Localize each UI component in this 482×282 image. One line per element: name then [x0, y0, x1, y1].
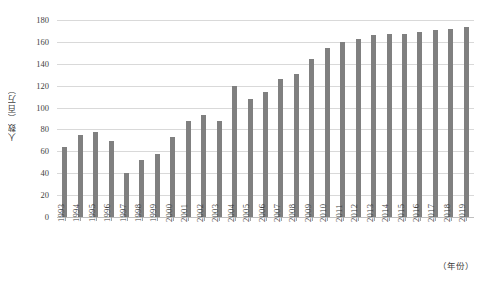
bar-2007[interactable]	[278, 79, 283, 217]
bar-chart: 人数（百万） 020406080100120140160180 19931994…	[0, 0, 482, 282]
bar-2002[interactable]	[201, 115, 206, 217]
x-tick-label-2007: 2007	[272, 204, 282, 222]
x-axis-title: （年份）	[438, 259, 474, 271]
plot-area	[57, 20, 474, 217]
y-axis-title-label: 人数（百万）	[7, 84, 19, 141]
x-tick-label-2012: 2012	[349, 204, 359, 222]
x-tick-label-2000: 2000	[164, 204, 174, 222]
x-tick-label-2014: 2014	[380, 204, 390, 222]
y-tick-label-60: 60	[41, 146, 50, 156]
y-tick-label-180: 180	[36, 15, 49, 25]
x-tick-label-2003: 2003	[210, 204, 220, 222]
bar-2004[interactable]	[232, 86, 237, 217]
y-axis-title: 人数（百万）	[2, 0, 24, 225]
y-tick-label-100: 100	[36, 103, 49, 113]
x-tick-label-2009: 2009	[303, 204, 313, 222]
x-tick-label-2005: 2005	[241, 204, 251, 222]
bar-2012[interactable]	[356, 39, 361, 217]
bar-2001[interactable]	[186, 121, 191, 217]
bar-2010[interactable]	[325, 48, 330, 217]
y-tick-label-0: 0	[45, 212, 49, 222]
y-tick-label-140: 140	[36, 59, 49, 69]
x-tick-label-1996: 1996	[102, 204, 112, 222]
x-tick-label-1998: 1998	[133, 204, 143, 222]
x-tick-label-2015: 2015	[396, 204, 406, 222]
bar-2005[interactable]	[248, 99, 253, 217]
x-tick-label-1995: 1995	[87, 204, 97, 222]
x-tick-label-2011: 2011	[334, 204, 344, 222]
bar-2016[interactable]	[417, 32, 422, 217]
x-tick-label-2017: 2017	[426, 204, 436, 222]
bar-2009[interactable]	[309, 59, 314, 217]
y-tick-label-120: 120	[36, 81, 49, 91]
bar-2013[interactable]	[371, 35, 376, 217]
x-tick-label-2002: 2002	[195, 204, 205, 222]
bar-2015[interactable]	[402, 34, 407, 217]
bar-2008[interactable]	[294, 74, 299, 217]
x-tick-label-1997: 1997	[118, 204, 128, 222]
x-tick-label-2001: 2001	[179, 204, 189, 222]
bar-2014[interactable]	[387, 34, 392, 217]
y-tick-label-20: 20	[41, 190, 50, 200]
bar-2003[interactable]	[217, 121, 222, 217]
bar-2011[interactable]	[340, 42, 345, 217]
x-tick-label-2004: 2004	[226, 204, 236, 222]
y-axis-tick-labels: 020406080100120140160180	[24, 0, 53, 237]
x-axis-tick-labels: 1993199419951996199719981999200020012002…	[57, 222, 474, 258]
x-tick-label-1999: 1999	[148, 204, 158, 222]
x-tick-label-2006: 2006	[257, 204, 267, 222]
bar-2019[interactable]	[464, 27, 469, 217]
x-tick-label-2010: 2010	[318, 204, 328, 222]
x-tick-label-2016: 2016	[411, 204, 421, 222]
bars-series	[57, 20, 474, 217]
bar-2018[interactable]	[448, 29, 453, 217]
x-tick-label-2013: 2013	[365, 204, 375, 222]
x-tick-label-1993: 1993	[56, 204, 66, 222]
x-tick-label-2008: 2008	[287, 204, 297, 222]
x-tick-label-2019: 2019	[457, 204, 467, 222]
bar-2006[interactable]	[263, 92, 268, 217]
y-tick-label-80: 80	[41, 124, 50, 134]
bar-2017[interactable]	[433, 30, 438, 217]
x-tick-label-2018: 2018	[442, 204, 452, 222]
y-tick-label-40: 40	[41, 168, 50, 178]
x-tick-label-1994: 1994	[71, 204, 81, 222]
y-tick-label-160: 160	[36, 37, 49, 47]
